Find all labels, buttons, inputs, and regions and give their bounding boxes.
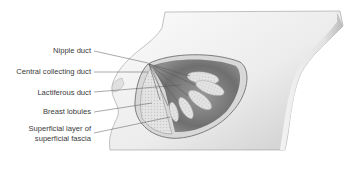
breast-anatomy-diagram: Nipple duct Central collecting duct Lact… [0,0,353,171]
label-superficial-layer-line1: Superficial layer of [29,124,91,133]
anatomy-illustration [0,0,353,171]
label-breast-lobules: Breast lobules [43,107,91,116]
label-lactiferous-duct: Lactiferous duct [37,88,91,97]
label-central-collecting-duct: Central collecting duct [16,67,91,76]
label-nipple-duct: Nipple duct [53,46,91,55]
label-superficial-layer-line2: superficial fascia [35,134,91,143]
